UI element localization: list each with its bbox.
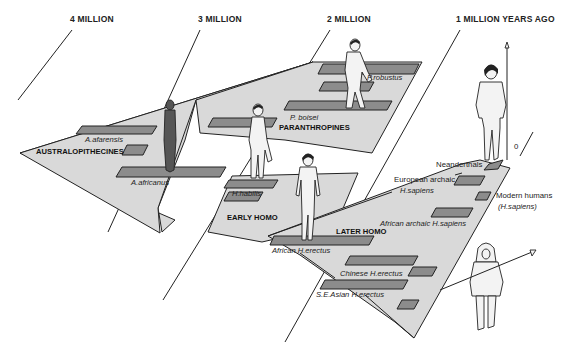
- species-label-european-archaic-h-sapiens: H.sapiens: [400, 186, 434, 195]
- time-line-4-million: [18, 30, 72, 100]
- species-label-modern-humans-h-sapiens: (H.sapiens): [498, 202, 537, 211]
- bar-p-robustus-2: [319, 82, 374, 91]
- bar-p-boisei: [284, 101, 392, 110]
- species-label-h-habilis: H.habilis: [232, 189, 261, 198]
- species-label-p-robustus: P.robustus: [367, 73, 403, 82]
- species-label-african-h-erectus: African H.erectus: [271, 246, 330, 255]
- legs-icon: [476, 296, 496, 330]
- bar-p-boisei-early: [208, 118, 277, 127]
- head-icon: [482, 249, 490, 259]
- spear-tip-icon: [505, 42, 509, 48]
- species-label-modern-humans: Modern humans: [496, 191, 552, 200]
- bar-chinese-h-erectus-late: [408, 267, 437, 276]
- species-label-chinese-h-erectus: Chinese H.erectus: [340, 269, 403, 278]
- bar-h-habilis: [224, 180, 278, 188]
- bar-chinese-h-erectus: [345, 256, 418, 265]
- time-label-3-million: 3 MILLION: [198, 14, 242, 24]
- species-label-african-archaic-h-sapiens: African archaic H.sapiens: [379, 219, 466, 228]
- species-label-a-africanus: A.africanus: [130, 178, 169, 187]
- group-label-early-homo: EARLY HOMO: [227, 213, 278, 222]
- species-label-se-asian-h-erectus: S.E.Asian H.erectus: [316, 290, 384, 299]
- hominid-evolution-diagram: 4 MILLION 3 MILLION 2 MILLION 1 MILLION …: [0, 0, 574, 350]
- time-label-1-million: 1 MILLION YEARS AGO: [456, 14, 555, 24]
- body-icon: [476, 82, 506, 160]
- time-label-2-million: 2 MILLION: [327, 14, 371, 24]
- head-icon: [166, 100, 174, 110]
- time-label-4-million: 4 MILLION: [70, 14, 114, 24]
- bar-se-asian-h-erectus: [320, 280, 408, 289]
- time-label-present: 0: [514, 142, 519, 151]
- figure-neanderthal: [476, 42, 509, 160]
- bar-a-afarensis: [76, 126, 157, 134]
- species-label-european-archaic: European archaic: [394, 175, 455, 184]
- figure-a-afarensis: [164, 100, 176, 172]
- bar-a-africanus-upper: [122, 145, 148, 155]
- bar-european-archaic-h-sapiens: [454, 176, 485, 185]
- species-label-neanderthals: Neanderthals: [436, 160, 482, 169]
- group-label-australopithecines: AUSTRALOPITHECINES: [36, 147, 124, 156]
- species-label-a-afarensis: A.afarensis: [84, 135, 123, 144]
- body-icon: [164, 110, 176, 172]
- time-line-present: [520, 132, 533, 156]
- spear-tip-icon: [530, 250, 536, 256]
- parka-icon: [470, 262, 503, 296]
- species-label-p-boisei: P. boisei: [290, 113, 318, 122]
- bar-african-archaic-h-sapiens: [431, 208, 473, 217]
- lineage-regions: [20, 62, 510, 338]
- group-label-paranthropines: PARANTHROPINES: [279, 123, 350, 132]
- group-label-later-homo: LATER HOMO: [336, 227, 387, 236]
- bar-african-h-erectus: [270, 236, 374, 245]
